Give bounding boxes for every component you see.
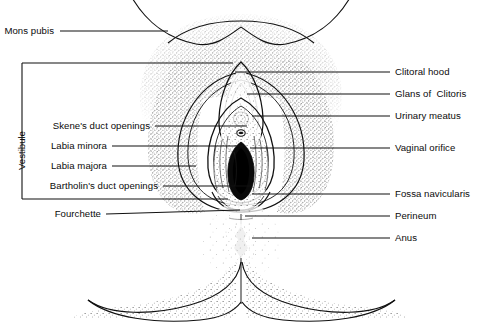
label-labia-majora: Labia majora (51, 160, 107, 171)
label-perineum: Perineum (395, 210, 436, 221)
label-labia-minora: Labia minora (51, 140, 107, 151)
group-label-vestibule: Vestibule (16, 131, 27, 170)
label-clitoral-hood: Clitoral hood (395, 66, 450, 77)
label-glans-of-clitoris: Glans of Clitoris (395, 88, 466, 99)
label-urinary-meatus: Urinary meatus (395, 110, 461, 121)
diagram-canvas: Vestibule Mons pubis Skene's duct openin… (0, 0, 483, 329)
label-anus: Anus (395, 232, 417, 243)
label-fourchette: Fourchette (55, 208, 101, 219)
label-fossa-navicularis: Fossa navicularis (395, 188, 470, 199)
label-skenes-duct-openings: Skene's duct openings (53, 120, 150, 131)
label-vaginal-orifice: Vaginal orifice (395, 142, 455, 153)
label-mons-pubis: Mons pubis (4, 25, 54, 36)
label-bartholins-duct-openings: Bartholin's duct openings (50, 180, 158, 191)
